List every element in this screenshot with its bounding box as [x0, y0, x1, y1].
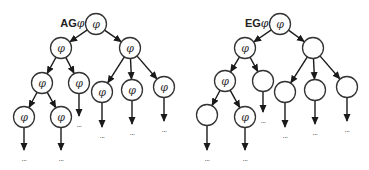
transition-arrow — [230, 90, 240, 107]
transition-arrow — [29, 92, 37, 107]
transition-arrow — [254, 30, 271, 42]
ellipsis: ... — [242, 154, 247, 163]
ellipsis: ... — [58, 154, 63, 163]
state-node: φ — [235, 38, 256, 59]
state-node — [275, 82, 296, 103]
transition-arrow — [130, 58, 131, 79]
state-node: φ — [32, 73, 53, 94]
ellipsis: ... — [204, 154, 209, 163]
state-circle — [303, 38, 324, 59]
transition-arrow — [47, 57, 56, 73]
ellipsis: ... — [76, 120, 81, 129]
transition-arrow — [231, 57, 240, 72]
transition-arrow — [212, 90, 220, 105]
state-node — [197, 105, 218, 126]
ellipsis: ... — [21, 154, 26, 163]
ellipsis: ... — [312, 128, 317, 137]
state-node: φ — [51, 38, 72, 59]
phi-label: φ — [160, 81, 168, 94]
phi-label: φ — [241, 111, 249, 124]
state-node — [253, 71, 274, 92]
phi-label: φ — [126, 42, 134, 55]
transition-arrow — [291, 57, 307, 83]
ellipsis: ... — [161, 125, 166, 134]
phi-label: φ — [20, 111, 28, 124]
state-node — [337, 77, 358, 98]
ellipsis: ... — [129, 128, 134, 137]
transition-arrow — [313, 58, 314, 79]
phi-label: φ — [57, 42, 65, 55]
state-node: φ — [235, 107, 256, 128]
phi-label: φ — [221, 75, 229, 88]
phi-label: φ — [276, 18, 284, 31]
state-node: φ — [154, 77, 175, 98]
ellipsis: ... — [260, 116, 265, 125]
transition-arrow — [66, 57, 74, 73]
state-node — [303, 38, 324, 59]
ctl-computation-trees-diagram: ..................φφφφφφφφφφAGφ ........… — [0, 0, 369, 170]
transition-arrow — [137, 56, 157, 79]
state-node: φ — [69, 73, 90, 94]
state-node: φ — [215, 71, 236, 92]
state-circle — [337, 77, 358, 98]
phi-label: φ — [128, 84, 136, 97]
phi-label: φ — [38, 77, 46, 90]
phi-label: φ — [75, 77, 83, 90]
eg-tree: ..................φφφφEGφ — [197, 14, 358, 163]
transition-arrow — [47, 92, 56, 107]
ellipsis: ... — [344, 125, 349, 134]
phi-label: φ — [92, 18, 100, 31]
eg-formula-label: EGφ — [245, 17, 269, 30]
state-node: φ — [270, 14, 291, 35]
ellipsis: ... — [282, 131, 287, 140]
phi-label: φ — [241, 42, 249, 55]
ellipsis: ... — [99, 131, 104, 140]
phi-label: φ — [98, 86, 106, 99]
state-circle — [253, 71, 274, 92]
state-node: φ — [120, 38, 141, 59]
transition-arrow — [250, 57, 258, 71]
transition-arrow — [108, 57, 124, 83]
state-circle — [305, 80, 326, 101]
state-node — [305, 80, 326, 101]
transition-arrow — [70, 30, 87, 42]
state-circle — [275, 82, 296, 103]
phi-label: φ — [57, 111, 65, 124]
state-node: φ — [14, 107, 35, 128]
state-node: φ — [92, 82, 113, 103]
state-node: φ — [51, 107, 72, 128]
transition-arrow — [320, 56, 340, 79]
state-node: φ — [86, 14, 107, 35]
ag-formula-label: AGφ — [60, 17, 85, 30]
transition-arrow — [105, 30, 121, 42]
state-circle — [197, 105, 218, 126]
transition-arrow — [288, 30, 304, 41]
state-node: φ — [122, 80, 143, 101]
ag-tree: ..................φφφφφφφφφφAGφ — [14, 14, 175, 163]
